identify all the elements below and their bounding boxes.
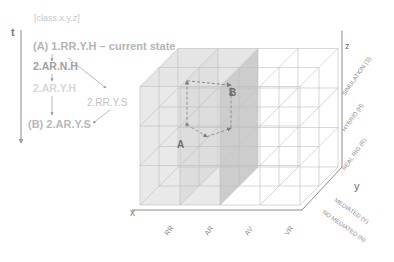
x-axis-label: x [130, 207, 135, 218]
x-category-rr: RR [163, 224, 175, 236]
z-category-hybrid: HYBRID (H) [341, 102, 365, 132]
z-category-real-rig: REAL RIG (R) [341, 137, 368, 171]
point-a-marker [185, 123, 189, 127]
transition-a-to-rr-y-s [68, 58, 106, 88]
z-category-simulation: SIMULATION (S) [341, 56, 372, 97]
z-axis-label: z [345, 41, 350, 51]
legend-transitions [52, 54, 110, 123]
y-axis-label: y [354, 180, 360, 192]
diagram-canvas: x y z RR AR AV VR SIMULATION (S) HYBRID … [0, 0, 394, 262]
x-category-vr: VR [283, 225, 294, 237]
state-space-cube [132, 31, 342, 211]
x-category-av: AV [243, 225, 254, 237]
point-b-label: B [229, 87, 236, 98]
point-a-label: A [177, 139, 184, 150]
transition-rr-y-s-to-b [93, 110, 110, 123]
x-category-ar: AR [203, 225, 214, 237]
